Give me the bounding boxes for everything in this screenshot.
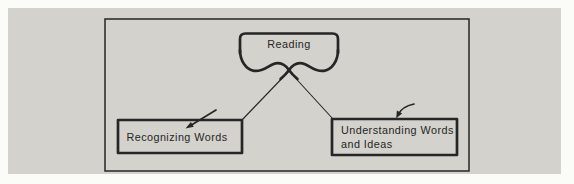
reading-banner-right-swash — [281, 50, 339, 79]
reading-label: Reading — [267, 38, 310, 50]
understanding-words-label-line1: Understanding Words — [341, 124, 454, 136]
recognizing-words-label: Recognizing Words — [126, 131, 227, 143]
understanding-words-node: Understanding Words and Ideas — [332, 104, 457, 155]
connector-left-line — [242, 71, 289, 120]
reading-banner-left-swash — [240, 50, 298, 79]
connector-right-line — [289, 71, 333, 119]
understanding-words-label-line2: and Ideas — [341, 138, 393, 150]
annotation-arrow-right-icon — [396, 104, 414, 118]
reading-node: Reading — [240, 34, 338, 80]
diagram-page: Reading Recognizing Words Understanding … — [0, 0, 574, 184]
recognizing-words-node: Recognizing Words — [118, 110, 242, 153]
reading-diagram: Reading Recognizing Words Understanding … — [0, 0, 574, 184]
